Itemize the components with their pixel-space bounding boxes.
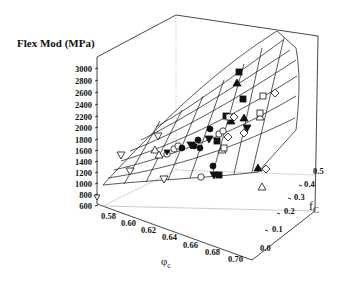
svg-text:800: 800 xyxy=(79,190,92,200)
svg-text:0.58: 0.58 xyxy=(101,211,116,221)
svg-text:1800: 1800 xyxy=(75,135,92,145)
svg-text:0.3: 0.3 xyxy=(294,192,305,202)
svg-text:1200: 1200 xyxy=(75,168,92,178)
svg-text:0.68: 0.68 xyxy=(205,247,220,257)
svg-text:1600: 1600 xyxy=(75,146,92,156)
svg-text:1400: 1400 xyxy=(75,157,92,167)
svg-text:3000: 3000 xyxy=(75,64,92,74)
svg-text:0.5: 0.5 xyxy=(313,166,324,176)
svg-text:2800: 2800 xyxy=(75,76,92,86)
svg-text:0.60: 0.60 xyxy=(121,218,136,228)
svg-text:0.0: 0.0 xyxy=(260,243,271,253)
svg-text:2200: 2200 xyxy=(75,112,92,122)
svg-text:2400: 2400 xyxy=(75,100,92,110)
svg-text:2000: 2000 xyxy=(75,123,92,133)
x-axis-label: φc xyxy=(161,255,171,270)
svg-text:2600: 2600 xyxy=(75,88,92,98)
svg-text:0.64: 0.64 xyxy=(162,232,178,242)
svg-text:0.4: 0.4 xyxy=(304,179,315,189)
svg-text:0.2: 0.2 xyxy=(284,206,295,216)
x-axis-ticks: 0.58 0.60 0.62 0.64 0.66 0.68 0.70 xyxy=(101,211,243,264)
svg-text:1000: 1000 xyxy=(75,179,92,189)
surface-chart: Flex Mod (MPa) φc fC 3000 2800 2600 2400… xyxy=(0,0,343,282)
svg-text:0.66: 0.66 xyxy=(183,240,198,250)
svg-text:600: 600 xyxy=(79,201,92,211)
z-axis-ticks: 3000 2800 2600 2400 2200 2000 1800 1600 … xyxy=(75,64,98,211)
svg-text:0.70: 0.70 xyxy=(228,254,243,264)
surface-mesh xyxy=(103,31,299,185)
svg-text:0.62: 0.62 xyxy=(141,225,156,235)
y-axis-label: fC xyxy=(309,199,319,215)
z-axis-label: Flex Mod (MPa) xyxy=(17,37,95,49)
svg-text:0.1: 0.1 xyxy=(272,224,283,234)
